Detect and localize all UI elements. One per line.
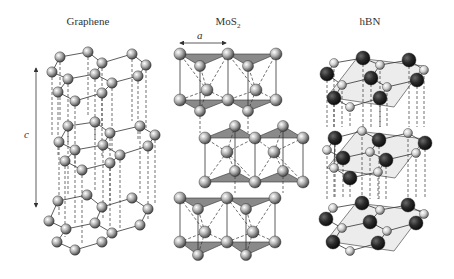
carbon-atom [70,96,80,106]
carbon-atom [150,130,160,140]
carbon-atom [55,52,65,62]
boron-atom [358,127,367,136]
sulfur-atom [241,250,252,261]
sulfur-atom [270,48,282,60]
nitrogen-atom [372,133,386,147]
nitrogen-atom [328,131,342,145]
carbon-atom [44,216,54,226]
boron-atom [374,168,383,177]
sulfur-atom [193,204,204,215]
nitrogen-atom [326,235,340,249]
molybdenum-atom [247,226,259,238]
sulfur-atom [269,192,281,204]
boron-atom [412,149,421,158]
nitrogen-atom [402,53,416,67]
boron-atom [346,103,355,112]
boron-atom [346,247,355,256]
carbon-atom [143,204,153,214]
boron-atom [338,81,347,90]
nitrogen-atom [336,151,350,165]
carbon-atom [107,78,117,88]
carbon-atom [77,165,87,175]
sulfur-atom [278,121,289,132]
carbon-atom [54,137,64,147]
carbon-atom [98,140,108,150]
boron-atom [376,61,385,70]
nitrogen-atom [320,67,334,81]
sulfur-atom [249,176,261,188]
nitrogen-atom [356,51,370,65]
nitrogen-atom [409,216,423,230]
carbon-atom [63,74,73,84]
carbon-atom [127,193,137,203]
sulfur-atom [270,94,282,106]
boron-atom [323,146,332,155]
carbon-atom [70,245,80,255]
nitrogen-atom [373,91,387,105]
carbon-atom [135,121,145,131]
carbon-atom [83,47,93,57]
molybdenum-atom [250,84,262,96]
molybdenum-atom [268,146,280,158]
sulfur-atom [243,61,254,72]
carbon-atom [107,228,117,238]
sulfur-atom [249,132,261,144]
crystal-structures-figure [0,0,454,279]
sulfur-atom [199,132,211,144]
nitrogen-atom [418,136,432,150]
boron-atom [338,224,347,233]
boron-atom [376,206,385,215]
carbon-atom [105,158,115,168]
carbon-atom [70,145,80,155]
carbon-atom [47,67,57,77]
nitrogen-atom [363,215,377,229]
carbon-atom [141,60,151,70]
sulfur-atom [195,61,206,72]
molybdenum-atom [199,226,211,238]
boron-atom [420,66,429,75]
carbon-atom [90,117,100,127]
nitrogen-atom [355,196,369,210]
sulfur-atom [221,192,233,204]
carbon-atom [97,88,107,98]
sulfur-atom [222,94,234,106]
sulfur-atom [297,176,309,188]
carbon-atom [90,69,100,79]
carbon-atom [133,71,143,81]
sulfur-atom [195,106,206,117]
sulfur-atom [193,250,204,261]
carbon-atom [61,224,71,234]
carbon-atom [60,156,70,166]
sulfur-atom [230,166,241,177]
nitrogen-atom [364,71,378,85]
nitrogen-atom [327,91,341,105]
carbon-atom [105,128,115,138]
nitrogen-atom [343,171,357,185]
sulfur-atom [230,121,241,132]
carbon-atom [53,87,63,97]
carbon-atom [53,196,63,206]
carbon-atom [97,202,107,212]
sulfur-atom [174,94,186,106]
carbon-atom [82,190,92,200]
carbon-atom [52,237,62,247]
carbon-atom [97,58,107,68]
boron-atom [366,148,375,157]
carbon-atom [97,237,107,247]
nitrogen-atom [401,198,415,212]
molybdenum-atom [201,84,213,96]
nitrogen-atom [379,153,393,167]
sulfur-atom [174,48,186,60]
boron-atom [330,164,339,173]
sulfur-atom [278,166,289,177]
carbon-atom [115,150,125,160]
s-triangle [180,242,227,255]
boron-atom [330,59,339,68]
sulfur-atom [199,176,211,188]
sulfur-atom [297,132,309,144]
sulfur-atom [221,236,233,248]
sulfur-atom [243,106,254,117]
boron-atom [420,210,429,219]
boron-atom [383,227,392,236]
carbon-atom [135,220,145,230]
